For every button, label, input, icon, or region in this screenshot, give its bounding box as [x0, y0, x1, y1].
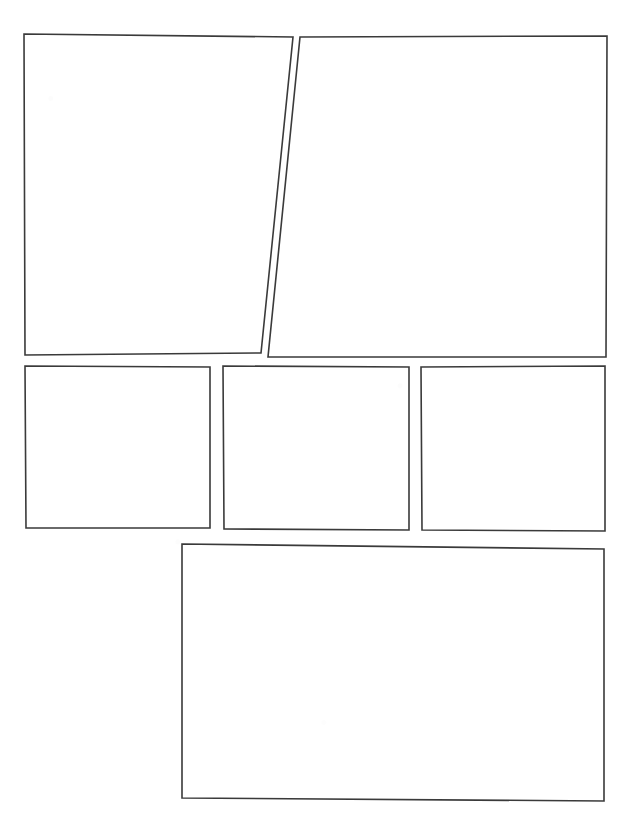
comic-panel-2[interactable]: [268, 36, 607, 357]
comic-panel-5[interactable]: [421, 366, 605, 531]
comic-page: [0, 0, 635, 821]
comic-panel-4[interactable]: [223, 366, 409, 530]
comic-panel-1[interactable]: [24, 34, 293, 355]
comic-panel-3[interactable]: [25, 366, 210, 528]
comic-panel-6[interactable]: [182, 544, 604, 801]
comic-panel-canvas: [0, 0, 635, 821]
